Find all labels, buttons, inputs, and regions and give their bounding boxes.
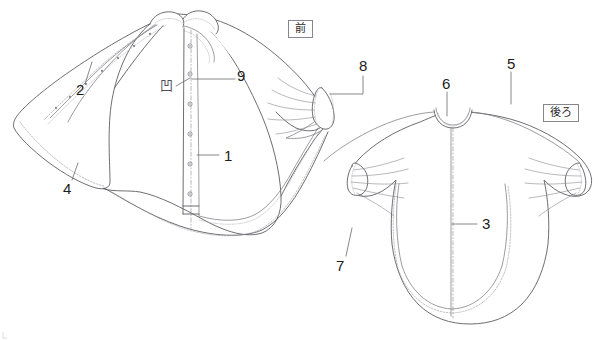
view-tag-front: 前 (288, 20, 313, 38)
callout-6: 6 (442, 76, 450, 91)
garment-flat-illustration (0, 0, 616, 340)
concave-snap-symbol: 凹 (160, 79, 173, 92)
callout-5: 5 (507, 56, 515, 71)
callout-4: 4 (63, 181, 71, 196)
front-view-group (13, 11, 334, 236)
view-tag-back: 後ろ (543, 104, 579, 122)
leader-8 (330, 76, 363, 94)
callout-9: 9 (237, 68, 245, 83)
callout-7: 7 (336, 258, 344, 273)
callout-3: 3 (482, 216, 490, 231)
callout-1: 1 (224, 148, 232, 163)
callout-2: 2 (76, 82, 84, 97)
plate-corner-tick (3, 332, 7, 338)
callout-8: 8 (359, 58, 367, 73)
technical-drawing-canvas: 1 2 3 4 5 6 7 8 9 凹 前 後ろ (0, 0, 616, 340)
leader-7 (346, 228, 352, 256)
back-view-group (324, 108, 592, 324)
front-hem-right-curve (281, 126, 326, 196)
